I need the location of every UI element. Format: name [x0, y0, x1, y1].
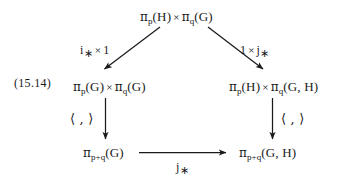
star-symbol: ∗ — [260, 47, 269, 59]
times-symbol: × — [171, 11, 181, 23]
argument: (G, H) — [261, 145, 296, 160]
pi-symbol: π — [229, 80, 237, 94]
operand: 1 — [103, 43, 109, 57]
subscript: p+q — [247, 152, 261, 162]
argument: (G) — [105, 145, 124, 160]
bottom-left-node: πp+q(G) — [83, 146, 124, 162]
pi-symbol: π — [271, 80, 279, 94]
argument: (H) — [153, 9, 172, 24]
edge-label-i-star-times-1: i∗×1 — [80, 44, 109, 59]
arrow-top-to-mid-left — [105, 27, 161, 69]
pi-symbol: π — [140, 10, 148, 24]
times-symbol: × — [246, 44, 256, 56]
argument: (G) — [127, 79, 146, 94]
mid-left-node: πp(G)×πq(G) — [73, 80, 146, 96]
times-symbol: × — [93, 44, 103, 56]
pi-symbol: π — [182, 10, 190, 24]
pi-symbol: π — [115, 80, 123, 94]
pi-symbol: π — [83, 146, 91, 160]
argument: (G) — [86, 79, 105, 94]
edge-label-1-times-j-star: 1×j∗ — [240, 44, 269, 59]
argument: (G, H) — [283, 79, 318, 94]
argument: (G) — [194, 9, 213, 24]
edge-label-pairing-right: ⟨ , ⟩ — [281, 112, 305, 125]
argument: (H) — [242, 79, 261, 94]
equation-number: (15.14) — [14, 77, 51, 89]
edge-label-pairing-left: ⟨ , ⟩ — [70, 112, 94, 125]
star-symbol: ∗ — [84, 47, 93, 59]
times-symbol: × — [104, 81, 114, 93]
bottom-right-node: πp+q(G, H) — [239, 146, 296, 162]
subscript: p+q — [91, 152, 105, 162]
star-symbol: ∗ — [180, 164, 189, 176]
times-symbol: × — [260, 81, 270, 93]
pi-symbol: π — [239, 146, 247, 160]
top-node: πp(H)×πq(G) — [140, 10, 213, 26]
pi-symbol: π — [73, 80, 81, 94]
commutative-diagram: (15.14) πp(H)×πq(G) πp(G)×πq(G) πp(H)×πq… — [0, 0, 349, 185]
mid-right-node: πp(H)×πq(G, H) — [229, 80, 318, 96]
edge-label-j-star: j∗ — [176, 161, 189, 176]
